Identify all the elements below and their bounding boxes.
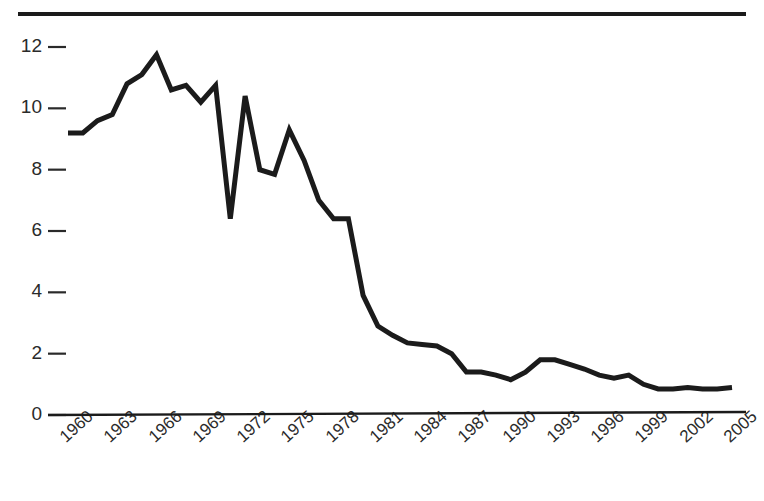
y-axis-ticks <box>48 47 66 415</box>
line-chart-plot <box>0 0 764 501</box>
chart-figure: 024681012 196019631966196919721975197819… <box>0 0 764 501</box>
data-series-line <box>68 55 732 389</box>
x-axis-baseline <box>48 412 746 415</box>
